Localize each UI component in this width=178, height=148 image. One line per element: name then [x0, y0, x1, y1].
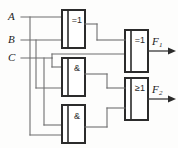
output-label-f2-sub: 2 — [159, 89, 163, 97]
circuit-canvas: =1 & & =1 ≥1 — [0, 0, 178, 148]
input-label-c: C — [8, 51, 16, 63]
gate-g1-xor[interactable]: =1 — [62, 10, 85, 48]
wire-g3-to-g5 — [85, 108, 125, 127]
output-label-f1: F 1 — [151, 35, 163, 49]
output-label-f1-base: F — [151, 35, 159, 47]
logic-circuit-diagram: =1 & & =1 ≥1 — [0, 0, 178, 148]
arrow-icon-f1 — [168, 48, 176, 55]
input-label-a: A — [7, 10, 15, 22]
arrow-icon-f2 — [168, 96, 176, 103]
output-label-f1-sub: 1 — [159, 41, 163, 49]
gate-g2-symbol: & — [74, 63, 80, 73]
input-label-b: B — [8, 33, 15, 45]
gate-g5-or[interactable]: ≥1 — [125, 78, 148, 120]
wire-g2-to-g5 — [85, 74, 125, 88]
gate-g1-symbol: =1 — [72, 15, 82, 25]
gate-g4-symbol: =1 — [135, 35, 145, 45]
wire-g1-to-g4 — [85, 24, 125, 40]
gate-g4-xor[interactable]: =1 — [125, 30, 148, 72]
gate-g3-symbol: & — [74, 111, 80, 121]
output-label-f2-base: F — [151, 83, 159, 95]
gate-g5-symbol: ≥1 — [135, 83, 145, 93]
gate-g2-and[interactable]: & — [62, 58, 85, 96]
output-label-f2: F 2 — [151, 83, 163, 97]
gate-g3-and[interactable]: & — [62, 105, 85, 143]
